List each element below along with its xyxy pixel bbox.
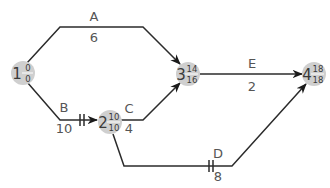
activity-d-name: D xyxy=(213,146,223,161)
node-4-earliest: 18 xyxy=(313,64,324,74)
node-1: 1 0 0 xyxy=(11,61,35,85)
node-2-earliest: 10 xyxy=(109,112,120,122)
node-2-latest: 10 xyxy=(109,123,120,133)
activity-e-name: E xyxy=(248,56,256,71)
node-3-id: 3 xyxy=(176,66,186,84)
activity-d-arrow xyxy=(113,84,306,166)
activity-b-duration: 10 xyxy=(56,121,73,136)
node-4-latest: 18 xyxy=(313,75,324,85)
activity-b-name: B xyxy=(60,100,69,115)
node-3-earliest: 14 xyxy=(187,64,198,74)
node-3-latest: 16 xyxy=(187,75,198,85)
node-3: 3 14 16 xyxy=(176,62,200,86)
activity-a: A 6 xyxy=(27,9,180,64)
activity-d-duration: 8 xyxy=(214,169,222,184)
network-diagram: A 6 B 10 C 4 E 2 D 8 1 0 0 2 xyxy=(0,0,330,188)
node-4: 4 18 18 xyxy=(302,62,326,86)
node-4-id: 4 xyxy=(302,66,312,84)
activity-d: D 8 xyxy=(113,84,306,184)
activity-e-duration: 2 xyxy=(248,79,256,94)
node-1-earliest: 0 xyxy=(25,63,30,73)
activity-a-arrow xyxy=(27,27,180,64)
activity-c: C 4 xyxy=(121,83,180,136)
node-1-id: 1 xyxy=(12,65,22,83)
activity-a-name: A xyxy=(90,9,99,24)
activity-e: E 2 xyxy=(199,56,302,94)
activity-c-duration: 4 xyxy=(125,121,133,136)
activity-b: B 10 xyxy=(27,82,97,136)
activity-a-duration: 6 xyxy=(90,30,98,45)
node-2-id: 2 xyxy=(98,114,108,132)
node-2: 2 10 10 xyxy=(98,110,122,134)
node-1-latest: 0 xyxy=(25,74,30,84)
activity-c-name: C xyxy=(124,101,133,116)
